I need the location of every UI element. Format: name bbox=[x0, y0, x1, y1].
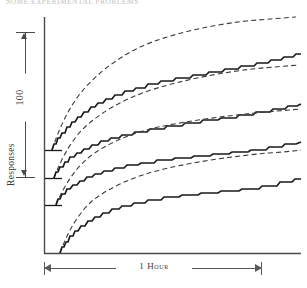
cumulative-record-1 bbox=[52, 54, 301, 150]
fitted-curve-2 bbox=[54, 65, 299, 178]
fitted-curve-3 bbox=[56, 109, 300, 205]
cumulative-record-figure: SOME EXPERIMENTAL PROBLEMS 100 bbox=[0, 0, 307, 288]
fitted-curve-4 bbox=[60, 150, 301, 253]
scale-bar-up-arrow-icon bbox=[21, 33, 27, 39]
x-axis-measure: 1 Hour bbox=[44, 262, 262, 276]
x-measure-right-arrow-icon bbox=[255, 264, 262, 272]
plot-canvas bbox=[0, 0, 307, 288]
y-scale-value: 100 bbox=[12, 74, 27, 122]
x-axis-measure-label: 1 Hour bbox=[116, 261, 192, 271]
cumulative-record-2 bbox=[54, 104, 301, 178]
cumulative-record-4 bbox=[60, 179, 301, 253]
cumulative-record-3 bbox=[56, 142, 301, 205]
y-axis-title: Responses bbox=[6, 120, 20, 186]
scale-bar-down-arrow-icon bbox=[21, 170, 27, 176]
x-measure-left-arrow-icon bbox=[44, 264, 51, 272]
